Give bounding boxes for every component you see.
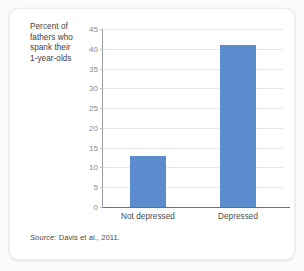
- x-axis-tick-label: Depressed: [218, 212, 258, 221]
- y-axis-tick-label: 35: [89, 64, 98, 73]
- y-axis-tick-label: 10: [89, 163, 98, 172]
- y-axis-tick-label: 15: [89, 143, 98, 152]
- y-axis-tick-mark: [100, 148, 103, 149]
- gridline: [103, 49, 283, 50]
- bar: [130, 156, 166, 207]
- y-axis-tick-label: 45: [89, 25, 98, 34]
- gridline: [103, 29, 283, 30]
- y-axis-tick-label: 0: [93, 203, 98, 212]
- bar-chart-plot: 051015202530354045 Not depressedDepresse…: [103, 29, 283, 207]
- y-axis-tick-mark: [100, 167, 103, 168]
- plot-inner: 051015202530354045 Not depressedDepresse…: [103, 29, 283, 207]
- source-note: Source: Davis et al., 2011.: [30, 233, 120, 242]
- y-axis-tick-label: 25: [89, 104, 98, 113]
- y-axis-tick-mark: [100, 108, 103, 109]
- figure-card: Percent of fathers who spank their 1-yea…: [9, 8, 295, 260]
- y-axis-tick-mark: [100, 69, 103, 70]
- bar: [220, 45, 256, 207]
- y-axis-title-line: spank their: [30, 43, 94, 54]
- y-axis-title-line: fathers who: [30, 33, 94, 44]
- gridline: [103, 88, 283, 89]
- x-axis-tick-label: Not depressed: [121, 212, 175, 221]
- y-axis-tick-label: 30: [89, 84, 98, 93]
- gridline: [103, 69, 283, 70]
- gridline: [103, 148, 283, 149]
- gridline: [103, 108, 283, 109]
- y-axis-title: Percent of fathers who spank their 1-yea…: [30, 22, 94, 64]
- source-citation: Davis et al., 2011.: [59, 233, 120, 242]
- x-axis-line: [102, 207, 290, 208]
- y-axis-tick-mark: [100, 88, 103, 89]
- y-axis-title-line: Percent of: [30, 22, 94, 33]
- y-axis-tick-mark: [100, 187, 103, 188]
- y-axis-title-line: 1-year-olds: [30, 54, 94, 65]
- source-label: Source:: [30, 233, 57, 242]
- y-axis-tick-label: 5: [93, 183, 98, 192]
- gridline: [103, 128, 283, 129]
- y-axis-tick-mark: [100, 207, 103, 208]
- y-axis-tick-label: 40: [89, 44, 98, 53]
- y-axis-tick-mark: [100, 49, 103, 50]
- y-axis-line: [102, 29, 103, 207]
- y-axis-tick-mark: [100, 29, 103, 30]
- y-axis-tick-mark: [100, 128, 103, 129]
- y-axis-tick-label: 20: [89, 123, 98, 132]
